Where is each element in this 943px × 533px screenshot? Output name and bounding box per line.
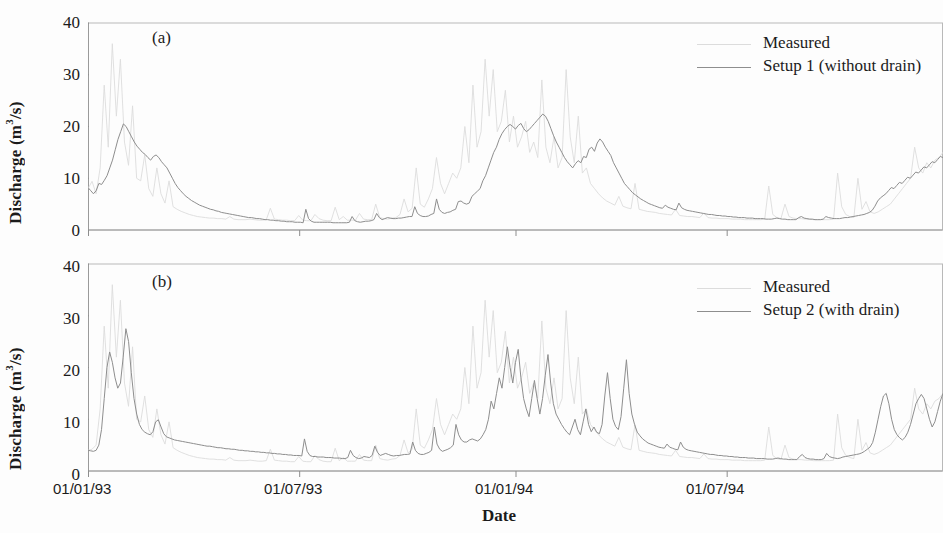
y-tick-label-a-0: 0 <box>38 221 80 241</box>
y-tick-label-a-30: 30 <box>38 65 80 85</box>
series-path-a-measured <box>88 44 943 221</box>
y-axis-title-b-post: /s) <box>6 348 25 366</box>
y-axis-title-b-sup: 3 <box>3 365 15 371</box>
y-axis-title-a: Discharge (m3/s) <box>6 24 26 224</box>
y-tick-label-b-30: 30 <box>38 309 80 329</box>
x-tick-label-0: 01/01/93 <box>53 480 111 497</box>
y-axis-title-a-sup: 3 <box>3 119 15 125</box>
x-axis-title: Date <box>482 506 516 526</box>
x-tick-label-1: 01/07/93 <box>264 480 322 497</box>
plot-a-svg <box>88 3 943 243</box>
x-tick-label-2: 01/01/94 <box>475 480 533 497</box>
y-axis-title-b: Discharge (m3/s) <box>6 270 26 470</box>
x-tick-label-3: 01/07/94 <box>686 480 744 497</box>
y-axis-title-a-post: /s) <box>6 102 25 120</box>
series-path-b-measured <box>88 285 943 462</box>
y-tick-label-b-40: 40 <box>38 257 80 277</box>
panel-b: Discharge (m3/s) 40 30 20 10 0 (b) Measu… <box>0 248 943 488</box>
y-axis-title-b-pre: Discharge (m <box>6 371 25 470</box>
plot-b-svg <box>88 248 943 484</box>
y-tick-label-b-20: 20 <box>38 361 80 381</box>
figure-container: Discharge (m3/s) 40 30 20 10 0 (a) Measu… <box>0 0 943 533</box>
y-tick-label-b-10: 10 <box>38 413 80 433</box>
series-path-b-setup2 <box>88 329 943 460</box>
y-axis-title-a-pre: Discharge (m <box>6 125 25 224</box>
y-tick-label-a-10: 10 <box>38 169 80 189</box>
y-tick-label-a-20: 20 <box>38 117 80 137</box>
panel-a: Discharge (m3/s) 40 30 20 10 0 (a) Measu… <box>0 0 943 247</box>
y-tick-label-a-40: 40 <box>38 13 80 33</box>
